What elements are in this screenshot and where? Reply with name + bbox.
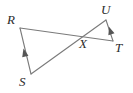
segment-rt	[20, 28, 113, 41]
vertex-label-x: X	[79, 37, 87, 50]
segments-group	[20, 20, 113, 74]
vertex-label-t: T	[115, 41, 122, 54]
vertex-label-r: R	[7, 13, 15, 26]
arrowhead-icon-rs	[20, 48, 28, 57]
geometry-figure: R S X U T	[0, 0, 133, 93]
segment-su	[31, 20, 106, 74]
segment-rs	[20, 28, 31, 74]
vertex-label-u: U	[101, 3, 110, 16]
arrowhead-icon-ut	[106, 26, 115, 36]
vertex-label-s: S	[19, 75, 26, 88]
